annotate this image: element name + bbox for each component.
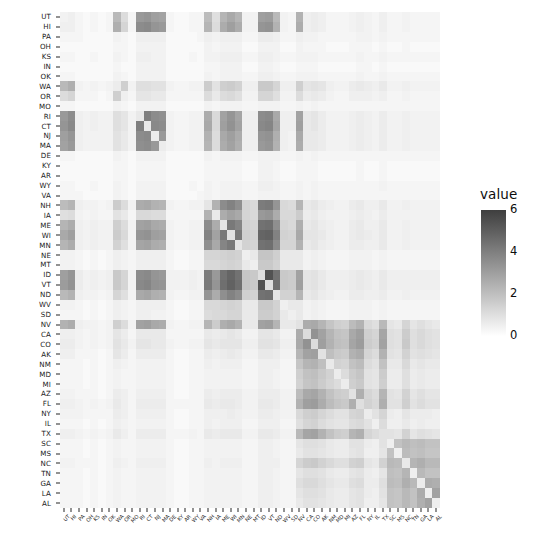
heatmap-cell xyxy=(258,121,266,131)
heatmap-cell xyxy=(349,260,357,270)
heatmap-cell xyxy=(402,12,410,22)
heatmap-cell xyxy=(166,339,174,349)
heatmap-cell xyxy=(410,42,418,52)
heatmap-cell xyxy=(220,240,228,250)
heatmap-cell xyxy=(136,379,144,389)
heatmap-cell xyxy=(265,91,273,101)
heatmap-cell xyxy=(417,200,425,210)
heatmap-cell xyxy=(204,300,212,310)
heatmap-cell xyxy=(220,458,228,468)
heatmap-cell xyxy=(227,488,235,498)
heatmap-cell xyxy=(212,468,220,478)
heatmap-cell xyxy=(204,191,212,201)
heatmap-cell xyxy=(265,131,273,141)
heatmap-cell xyxy=(379,329,387,339)
heatmap-cell xyxy=(159,478,167,488)
heatmap-cell xyxy=(318,230,326,240)
heatmap-cell xyxy=(318,349,326,359)
heatmap-cell xyxy=(189,359,197,369)
heatmap-cell xyxy=(394,161,402,171)
heatmap-cell xyxy=(174,52,182,62)
heatmap-cell xyxy=(121,62,129,72)
heatmap-cell xyxy=(106,439,114,449)
heatmap-cell xyxy=(273,448,281,458)
heatmap-cell xyxy=(227,81,235,91)
heatmap-cell xyxy=(432,111,440,121)
heatmap-cell xyxy=(136,389,144,399)
heatmap-cell xyxy=(379,250,387,260)
heatmap-cell xyxy=(341,240,349,250)
heatmap-cell xyxy=(273,210,281,220)
heatmap-cell xyxy=(159,468,167,478)
heatmap-cell xyxy=(265,379,273,389)
heatmap-cell xyxy=(296,101,304,111)
heatmap-cell xyxy=(106,270,114,280)
heatmap-cell xyxy=(197,200,205,210)
heatmap-cell xyxy=(425,448,433,458)
y-axis-label: NM xyxy=(0,359,52,369)
heatmap-cell xyxy=(136,290,144,300)
heatmap-cell xyxy=(121,191,129,201)
heatmap-cell xyxy=(303,161,311,171)
heatmap-cell xyxy=(220,468,228,478)
heatmap-cell xyxy=(166,121,174,131)
heatmap-cell xyxy=(288,439,296,449)
heatmap-cell xyxy=(425,429,433,439)
heatmap-panel xyxy=(60,12,440,508)
heatmap-cell xyxy=(60,399,68,409)
heatmap-cell xyxy=(341,42,349,52)
heatmap-cell xyxy=(311,478,319,488)
heatmap-cell xyxy=(75,72,83,82)
heatmap-cell xyxy=(417,409,425,419)
heatmap-cell xyxy=(296,329,304,339)
heatmap-cell xyxy=(372,62,380,72)
heatmap-cell xyxy=(288,32,296,42)
heatmap-cell xyxy=(242,72,250,82)
heatmap-cell xyxy=(402,230,410,240)
heatmap-cell xyxy=(425,498,433,508)
heatmap-cell xyxy=(410,240,418,250)
heatmap-cell xyxy=(258,101,266,111)
heatmap-cell xyxy=(220,270,228,280)
heatmap-cell xyxy=(341,250,349,260)
heatmap-cell xyxy=(212,131,220,141)
heatmap-cell xyxy=(68,399,76,409)
heatmap-cell xyxy=(334,389,342,399)
heatmap-cell xyxy=(303,468,311,478)
heatmap-cell xyxy=(90,419,98,429)
heatmap-cell xyxy=(204,250,212,260)
heatmap-cell xyxy=(425,22,433,32)
heatmap-cell xyxy=(151,379,159,389)
heatmap-cell xyxy=(273,121,281,131)
heatmap-cell xyxy=(265,488,273,498)
heatmap-cell xyxy=(60,320,68,330)
heatmap-cell xyxy=(83,220,91,230)
heatmap-cell xyxy=(212,220,220,230)
heatmap-cell xyxy=(303,339,311,349)
heatmap-cell xyxy=(166,419,174,429)
heatmap-cell xyxy=(121,171,129,181)
heatmap-cell xyxy=(166,458,174,468)
heatmap-cell xyxy=(182,171,190,181)
heatmap-cell xyxy=(204,181,212,191)
heatmap-cell xyxy=(410,290,418,300)
heatmap-cell xyxy=(113,468,121,478)
heatmap-cell xyxy=(349,181,357,191)
heatmap-cell xyxy=(128,72,136,82)
heatmap-cell xyxy=(280,191,288,201)
heatmap-cell xyxy=(258,379,266,389)
heatmap-cell xyxy=(144,429,152,439)
heatmap-cell xyxy=(356,290,364,300)
heatmap-cell xyxy=(235,320,243,330)
heatmap-cell xyxy=(364,379,372,389)
heatmap-cell xyxy=(197,101,205,111)
heatmap-cell xyxy=(75,359,83,369)
heatmap-cell xyxy=(425,310,433,320)
heatmap-cell xyxy=(402,62,410,72)
heatmap-cell xyxy=(356,52,364,62)
heatmap-cell xyxy=(136,200,144,210)
y-axis-label: WY xyxy=(0,181,52,191)
heatmap-cell xyxy=(98,320,106,330)
heatmap-cell xyxy=(174,310,182,320)
heatmap-cell xyxy=(394,280,402,290)
